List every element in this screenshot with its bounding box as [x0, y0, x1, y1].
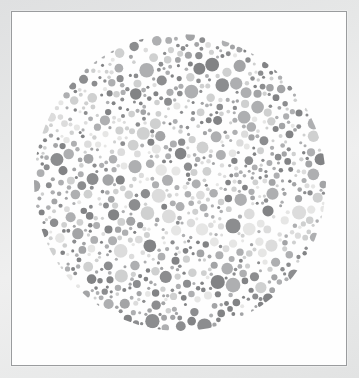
screenshot-root: Circular mosaic of many small grayscale … [0, 0, 359, 378]
caption-strip [12, 353, 346, 365]
plate-card-inner [12, 12, 346, 365]
dot-mosaic-svg [34, 34, 326, 331]
plate-card [11, 11, 347, 366]
ishihara-disc [34, 34, 326, 331]
